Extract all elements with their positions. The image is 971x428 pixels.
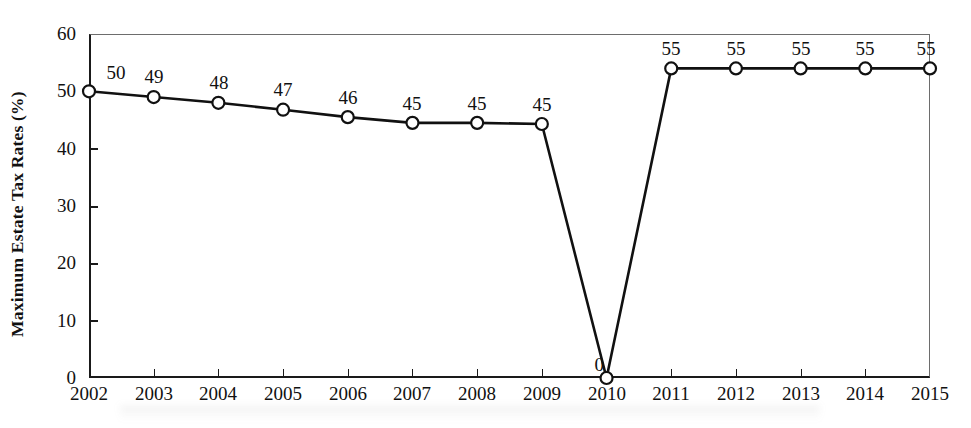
y-tick-label-60: 60	[24, 24, 76, 43]
x-tick-label-2009: 2009	[505, 384, 579, 403]
data-label-2011: 55	[648, 39, 694, 58]
x-tick-label-2007: 2007	[375, 384, 449, 403]
data-label-2012: 55	[713, 39, 759, 58]
y-tick-mark-10	[89, 320, 98, 322]
x-tick-mark-2006	[348, 369, 349, 378]
data-label-2008: 45	[454, 94, 500, 113]
x-tick-label-2015: 2015	[893, 384, 967, 403]
x-tick-label-2008: 2008	[440, 384, 514, 403]
y-tick-label-50: 50	[24, 81, 76, 100]
x-tick-mark-2013	[801, 369, 802, 378]
data-label-2010: 0	[570, 355, 604, 374]
x-tick-label-2011: 2011	[634, 384, 708, 403]
x-tick-label-2003: 2003	[117, 384, 191, 403]
data-label-2003: 49	[131, 67, 177, 86]
x-tick-mark-2004	[218, 369, 219, 378]
x-tick-mark-2007	[412, 369, 413, 378]
x-tick-label-2004: 2004	[181, 384, 255, 403]
y-tick-mark-30	[89, 206, 98, 208]
x-tick-label-2010: 2010	[570, 384, 644, 403]
x-tick-label-2002: 2002	[52, 384, 126, 403]
y-tick-label-20: 20	[24, 253, 76, 272]
x-tick-mark-2012	[736, 369, 737, 378]
x-tick-mark-2005	[283, 369, 284, 378]
x-tick-label-2013: 2013	[764, 384, 838, 403]
x-tick-label-2014: 2014	[828, 384, 902, 403]
x-tick-mark-2011	[671, 369, 672, 378]
data-label-2013: 55	[778, 39, 824, 58]
x-tick-mark-2014	[865, 369, 866, 378]
y-tick-mark-40	[89, 148, 98, 150]
data-label-2009: 45	[519, 95, 565, 114]
y-tick-label-40: 40	[24, 139, 76, 158]
y-tick-label-30: 30	[24, 196, 76, 215]
data-label-2004: 48	[196, 73, 242, 92]
x-tick-mark-2003	[154, 369, 155, 378]
data-label-2005: 47	[260, 80, 306, 99]
x-tick-mark-2009	[542, 369, 543, 378]
y-tick-label-10: 10	[24, 311, 76, 330]
scan-shadow-artifact	[120, 405, 820, 421]
chart-figure: Maximum Estate Tax Rates (%) 60 50 40 30…	[0, 0, 971, 428]
x-tick-mark-2010	[607, 369, 608, 378]
x-tick-mark-2008	[477, 369, 478, 378]
data-label-2015: 55	[903, 39, 949, 58]
x-tick-label-2006: 2006	[311, 384, 385, 403]
x-tick-label-2005: 2005	[246, 384, 320, 403]
x-tick-label-2012: 2012	[699, 384, 773, 403]
data-label-2007: 45	[389, 94, 435, 113]
data-label-2014: 55	[842, 39, 888, 58]
y-tick-mark-20	[89, 263, 98, 265]
data-label-2006: 46	[325, 88, 371, 107]
